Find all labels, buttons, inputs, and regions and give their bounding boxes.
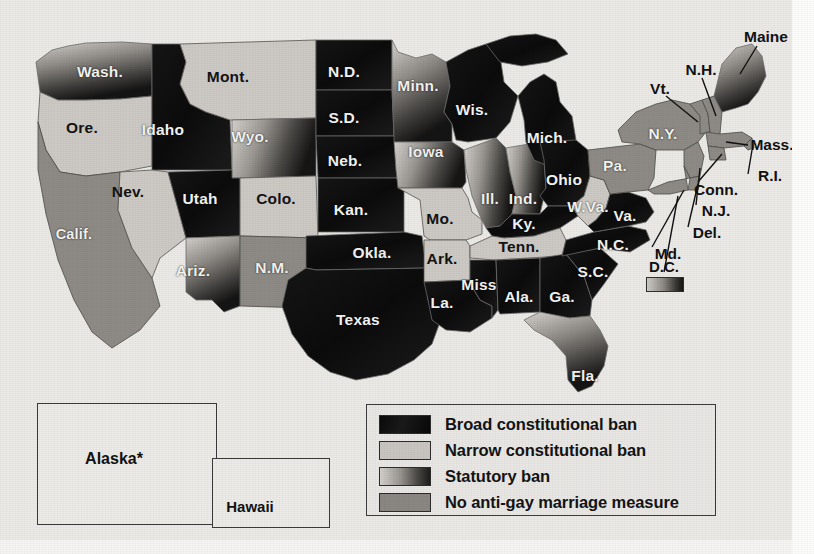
state-ore xyxy=(38,92,152,176)
leader-md xyxy=(652,190,684,247)
map-figure: .broad { fill:url(#gBroad); stroke:#6a6a… xyxy=(0,0,814,554)
legend-row-broad: Broad constitutional ban xyxy=(379,412,715,437)
state-minn xyxy=(392,40,452,142)
leader-ri xyxy=(748,150,752,174)
legend-swatch-statutory xyxy=(379,467,431,486)
legend-swatch-broad xyxy=(379,415,431,434)
legend-swatch-none xyxy=(379,493,431,512)
state-ariz xyxy=(186,236,240,312)
state-sd xyxy=(316,90,394,136)
state-wash xyxy=(36,42,152,100)
state-maine xyxy=(714,44,766,112)
page-right-margin xyxy=(792,0,814,554)
state-colo xyxy=(240,176,318,238)
state-mont xyxy=(180,40,316,120)
legend-row-narrow: Narrow constitutional ban xyxy=(379,438,715,463)
state-kan xyxy=(318,178,404,232)
state-okla xyxy=(306,232,426,270)
state-ark xyxy=(424,240,470,282)
legend-row-none: No anti-gay marriage measure xyxy=(379,490,715,515)
state-ohio xyxy=(540,140,590,206)
alaska-inset xyxy=(37,403,217,525)
legend-swatch-narrow xyxy=(379,441,431,460)
state-nc xyxy=(562,226,650,256)
leader-dc xyxy=(664,196,678,272)
legend-row-statutory: Statutory ban xyxy=(379,464,715,489)
state-texas xyxy=(282,268,440,380)
state-fla xyxy=(524,312,608,392)
page-bottom-margin xyxy=(0,540,814,554)
leader-del xyxy=(688,184,698,227)
state-neb xyxy=(316,136,404,178)
legend-label-none: No anti-gay marriage measure xyxy=(445,493,679,512)
legend-label-broad: Broad constitutional ban xyxy=(445,415,637,434)
state-nd xyxy=(316,40,392,90)
map-legend: Broad constitutional ban Narrow constitu… xyxy=(366,404,716,516)
state-iowa xyxy=(394,142,466,188)
state-wyo xyxy=(232,118,316,178)
state-conn xyxy=(708,146,726,160)
state-ala xyxy=(496,258,540,314)
legend-label-narrow: Narrow constitutional ban xyxy=(445,441,646,460)
dc-swatch xyxy=(646,277,684,292)
hawaii-inset xyxy=(212,458,330,528)
legend-label-statutory: Statutory ban xyxy=(445,467,550,486)
state-mo xyxy=(398,188,482,240)
